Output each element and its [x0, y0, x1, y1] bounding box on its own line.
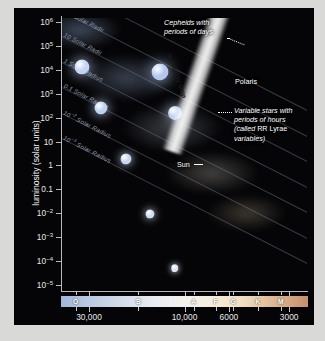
x-tick-label: 10,000 — [172, 312, 198, 322]
spectral-tick-lower — [76, 307, 77, 311]
main-sequence-star — [171, 264, 179, 272]
spectral-class-k: K — [255, 296, 260, 307]
y-tick-label: 10−3 — [37, 232, 53, 243]
instability-strip-band — [162, 18, 232, 155]
y-tick — [56, 46, 62, 47]
cepheids-line-1: Cepheids with — [164, 18, 213, 27]
y-tick-label: 103 — [40, 88, 53, 99]
spectral-tick-lower — [194, 307, 195, 311]
polaris-label: Polaris — [235, 77, 257, 86]
rr-lyrae-line-4: variables) — [234, 134, 292, 143]
spectral-tick — [281, 291, 282, 295]
chart-canvas: 103 Solar Radii102 Solar Radii10 Solar R… — [14, 8, 314, 325]
spectral-tick — [216, 291, 217, 295]
sun-label: Sun — [177, 160, 190, 169]
rr-lyrae-leader-line — [218, 112, 232, 113]
rr-lyrae-name: RR Lyrae — [257, 124, 287, 133]
sun-leader-line — [194, 164, 203, 165]
y-axis-title: luminosity (solar units) — [31, 93, 41, 233]
main-sequence-star — [120, 154, 131, 165]
y-tick-label: 10−5 — [37, 280, 53, 291]
radius-line-label: 102 Solar Radii — [62, 18, 105, 33]
giant-star — [152, 64, 169, 81]
y-tick-label: 104 — [40, 64, 53, 75]
y-tick — [56, 213, 62, 214]
spectral-class-a: A — [191, 296, 196, 307]
y-tick — [56, 189, 62, 190]
radius-line-label: 10−3 Solar Radius — [62, 133, 113, 164]
y-tick — [56, 165, 62, 166]
y-tick — [56, 118, 62, 119]
spectral-tick — [233, 291, 234, 295]
main-sequence-star — [74, 59, 89, 74]
cepheids-line-2: periods of days — [164, 27, 213, 36]
spectral-tick — [258, 291, 259, 295]
y-tick-label: 1 — [48, 160, 53, 170]
spectral-class-f: F — [213, 296, 217, 307]
x-axis-title: surface temperature (K) — [61, 324, 308, 325]
spectral-tick — [194, 291, 195, 295]
main-sequence-star — [146, 209, 155, 218]
spectral-tick — [138, 291, 139, 295]
main-sequence-star — [95, 101, 108, 114]
spectral-class-bar — [61, 296, 308, 307]
spectral-class-m: M — [278, 296, 284, 307]
y-tick-label: 10−4 — [37, 256, 53, 267]
x-tick-label: 30,000 — [76, 312, 102, 322]
y-tick — [56, 142, 62, 143]
spectral-tick — [76, 291, 77, 295]
y-tick-label: 10 — [44, 137, 53, 147]
spectral-class-g: G — [231, 296, 236, 307]
y-tick-label: 106 — [40, 17, 53, 28]
x-tick-label: 3000 — [280, 312, 299, 322]
y-tick — [56, 70, 62, 71]
spectral-class-b: B — [136, 296, 141, 307]
hr-diagram-figure: 103 Solar Radii102 Solar Radii10 Solar R… — [0, 0, 325, 341]
rr-lyrae-paren-open: (called — [234, 124, 257, 133]
y-tick — [56, 261, 62, 262]
y-tick — [56, 94, 62, 95]
spectral-tick-lower — [281, 307, 282, 311]
x-tick-label: 6000 — [220, 312, 239, 322]
rr-lyrae-annotation: Variable stars with periods of hours (ca… — [234, 106, 292, 143]
cepheids-annotation: Cepheids with periods of days — [164, 18, 213, 36]
spectral-tick-lower — [233, 307, 234, 311]
y-tick-label: 102 — [40, 112, 53, 123]
y-tick-label: 105 — [40, 41, 53, 52]
spectral-tick-lower — [138, 307, 139, 311]
y-tick — [56, 237, 62, 238]
spectral-tick-lower — [258, 307, 259, 311]
y-tick — [56, 285, 62, 286]
spectral-class-o: O — [73, 296, 78, 307]
radius-line-label: 10 Solar Radii — [63, 31, 103, 56]
plot-area: 103 Solar Radii102 Solar Radii10 Solar R… — [62, 18, 307, 290]
rr-lyrae-line-1: Variable stars with — [234, 106, 292, 115]
rr-lyrae-line-3: (called RR Lyrae — [234, 124, 292, 133]
y-tick — [56, 22, 62, 23]
spectral-tick-lower — [216, 307, 217, 311]
y-axis-line — [61, 16, 62, 292]
y-tick-label: 0.1 — [41, 184, 53, 194]
